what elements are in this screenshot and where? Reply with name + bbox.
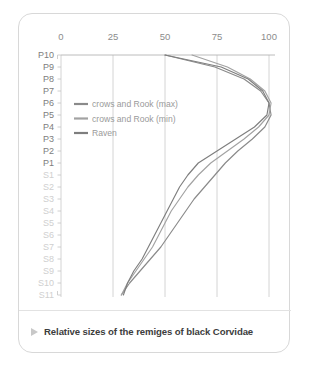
y-category-label-p4: P4 xyxy=(43,122,54,132)
y-category-label-s8: S8 xyxy=(43,254,54,264)
y-category-label-p6: P6 xyxy=(43,98,54,108)
data-series-group xyxy=(121,55,271,295)
caption-text: Relative sizes of the remiges of black C… xyxy=(44,326,253,337)
x-tick-label: 50 xyxy=(160,31,171,42)
series-line xyxy=(123,55,269,295)
triangle-right-icon xyxy=(31,328,38,336)
y-category-label-p8: P8 xyxy=(43,74,54,84)
x-tick-label: 75 xyxy=(212,31,223,42)
chart-legend: crows and Rook (max)crows and Rook (min)… xyxy=(74,99,178,138)
y-category-label-s1: S1 xyxy=(43,170,54,180)
y-category-label-s4: S4 xyxy=(43,206,54,216)
legend-label: crows and Rook (min) xyxy=(92,114,176,124)
y-axis-category-labels: P10P9P8P7P6P5P4P3P2P1S1S2S3S4S5S6S7S8S9S… xyxy=(38,50,54,300)
y-category-label-p1: P1 xyxy=(43,158,54,168)
y-category-label-p3: P3 xyxy=(43,134,54,144)
chart-card: 0255075100 P10P9P8P7P6P5P4P3P2P1S1S2S3S4… xyxy=(18,13,290,353)
y-axis-ticks xyxy=(58,55,62,295)
chart-caption: Relative sizes of the remiges of black C… xyxy=(19,310,291,353)
gridlines-group xyxy=(61,55,269,297)
x-tick-label: 100 xyxy=(261,31,277,42)
y-category-label-s9: S9 xyxy=(43,266,54,276)
x-tick-label: 25 xyxy=(108,31,119,42)
y-category-label-p10: P10 xyxy=(38,50,54,60)
y-category-label-s5: S5 xyxy=(43,218,54,228)
series-line xyxy=(121,55,271,295)
y-category-label-s3: S3 xyxy=(43,194,54,204)
y-category-label-s7: S7 xyxy=(43,242,54,252)
y-category-label-p2: P2 xyxy=(43,146,54,156)
y-category-label-s2: S2 xyxy=(43,182,54,192)
x-tick-label: 0 xyxy=(58,31,63,42)
remiges-line-chart: 0255075100 P10P9P8P7P6P5P4P3P2P1S1S2S3S4… xyxy=(19,14,291,310)
y-category-label-s11: S11 xyxy=(39,290,54,300)
y-category-label-p9: P9 xyxy=(43,62,54,72)
legend-label: Raven xyxy=(92,128,117,138)
y-category-label-s10: S10 xyxy=(38,278,54,288)
y-category-label-p7: P7 xyxy=(43,86,54,96)
y-category-label-p5: P5 xyxy=(43,110,54,120)
chart-plot-area: 0255075100 P10P9P8P7P6P5P4P3P2P1S1S2S3S4… xyxy=(19,14,291,310)
x-axis-tick-labels: 0255075100 xyxy=(58,31,277,42)
y-category-label-s6: S6 xyxy=(43,230,54,240)
legend-label: crows and Rook (max) xyxy=(92,99,178,109)
